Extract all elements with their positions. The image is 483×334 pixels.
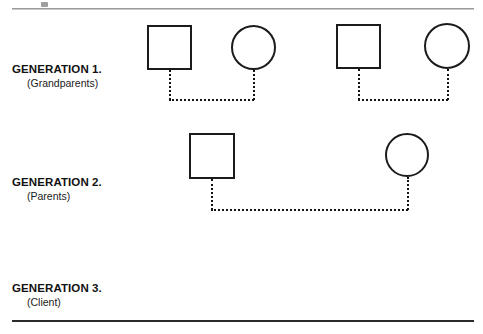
genogram-node-g2-female-1[interactable] — [385, 133, 429, 177]
generation-3-title: GENERATION 3. — [0, 281, 145, 295]
connector-g2-couple-base — [211, 209, 408, 211]
generation-1-title: GENERATION 1. — [0, 62, 145, 76]
bottom-divider-rule — [12, 320, 474, 322]
genogram-node-g1-male-1[interactable] — [147, 25, 192, 70]
generation-2-subtitle: (Parents) — [0, 189, 145, 203]
generation-2-title: GENERATION 2. — [0, 175, 145, 189]
connector-g1-couple-2-drop-right — [447, 69, 449, 100]
connector-g2-couple-drop-right — [407, 177, 409, 210]
connector-g1-couple-2-base — [358, 99, 448, 101]
generation-3-subtitle: (Client) — [0, 295, 145, 309]
genogram-node-g1-female-1[interactable] — [231, 25, 276, 70]
genogram-node-g1-male-2[interactable] — [336, 24, 381, 69]
top-divider-rule — [12, 8, 474, 9]
genogram-node-g2-male-1[interactable] — [189, 133, 235, 179]
generation-3-label: GENERATION 3. (Client) — [0, 281, 145, 309]
connector-g2-couple-drop-left — [211, 179, 213, 210]
connector-g1-couple-1-base — [169, 99, 254, 101]
connector-g1-couple-2-drop-left — [358, 69, 360, 100]
generation-1-label: GENERATION 1. (Grandparents) — [0, 62, 145, 90]
connector-g1-couple-1-drop-right — [253, 70, 255, 100]
generation-2-label: GENERATION 2. (Parents) — [0, 175, 145, 203]
generation-1-subtitle: (Grandparents) — [0, 76, 145, 90]
page-top-artifact — [41, 2, 48, 7]
genogram-page: GENERATION 1. (Grandparents) GENERATION … — [0, 0, 483, 334]
connector-g1-couple-1-drop-left — [169, 70, 171, 100]
genogram-node-g1-female-2[interactable] — [424, 23, 470, 69]
